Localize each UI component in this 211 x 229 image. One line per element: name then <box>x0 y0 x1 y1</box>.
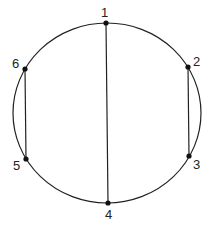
point-1 <box>103 20 108 25</box>
label-2: 2 <box>193 54 200 69</box>
chord-2-3 <box>188 67 189 156</box>
label-6: 6 <box>12 56 19 71</box>
chord-diagram: 1 2 3 4 5 6 <box>0 0 211 229</box>
point-4 <box>105 200 110 205</box>
point-5 <box>23 156 28 161</box>
label-3: 3 <box>193 157 200 172</box>
chord-1-4 <box>106 23 108 203</box>
point-6 <box>22 66 27 71</box>
label-5: 5 <box>13 158 20 173</box>
point-3 <box>186 153 191 158</box>
label-4: 4 <box>105 207 112 222</box>
label-1: 1 <box>101 5 108 20</box>
chord-6-5 <box>25 69 26 159</box>
point-2 <box>185 64 190 69</box>
